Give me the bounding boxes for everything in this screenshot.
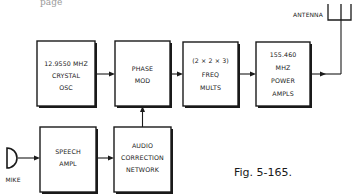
block-label: CRYSTAL: [52, 72, 80, 79]
antenna-label: ANTENNA: [293, 11, 324, 18]
block-label: 155.460: [270, 51, 297, 58]
block-freq-mults: (2 × 2 × 3) FREQ MULTS: [183, 42, 240, 108]
connection-crystal-to-phase: [95, 72, 115, 77]
block-crystal-osc: 12.9550 MHZ CRYSTAL OSC: [37, 41, 97, 108]
block-label: 12.9550 MHZ: [44, 60, 88, 67]
block-label: MULTS: [200, 84, 221, 91]
block-label: AMPL: [59, 160, 77, 167]
connection-audio-to-phase: [140, 106, 145, 127]
block-speech-ampl: SPEECH AMPL: [40, 127, 98, 194]
block-label: PHASE: [132, 65, 153, 72]
page-fragment-text: page: [40, 0, 62, 7]
block-power-amps: 155.460 MHZ POWER AMPLS: [256, 42, 312, 108]
block-label: POWER: [271, 77, 295, 84]
connection-power-to-antenna: [310, 20, 341, 77]
block-label: (2 × 2 × 3): [192, 57, 229, 64]
block-label: FREQ: [202, 71, 219, 78]
block-label: NETWORK: [126, 166, 160, 173]
block-label: SPEECH: [55, 148, 81, 155]
block-label: MHZ: [276, 64, 291, 71]
antenna-icon: [328, 4, 351, 20]
connection-freq-to-power: [238, 72, 256, 77]
microphone-icon: [7, 148, 17, 168]
block-label: MOD: [135, 77, 151, 84]
block-label: AUDIO: [132, 142, 153, 149]
figure-caption: Fig. 5-165.: [234, 166, 292, 179]
block-audio-correction: AUDIO CORRECTION NETWORK: [114, 127, 173, 194]
block-diagram: page 12.9550 MHZ CRYSTAL OSC PHASE MOD (…: [0, 0, 357, 196]
mike-label: MIKE: [5, 176, 20, 183]
block-label: AMPLS: [272, 90, 294, 97]
block-label: CORRECTION: [121, 154, 164, 161]
connection-speech-to-audio: [96, 156, 114, 161]
block-label: OSC: [59, 84, 73, 91]
connection-mike-to-speech: [18, 156, 40, 161]
block-phase-mod: PHASE MOD: [115, 41, 172, 108]
